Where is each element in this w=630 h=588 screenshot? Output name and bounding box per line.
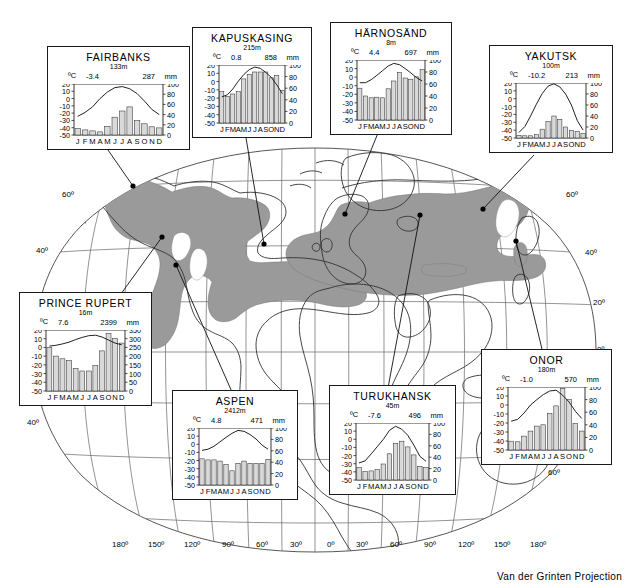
climograph-elevation: 100m [490,62,612,70]
y-tick-right: 40 [289,96,297,105]
temp-unit-label: ºC [213,52,221,61]
temperature-curve [519,84,583,133]
y-tick-right: 60 [289,84,297,93]
svg-text:J: J [80,393,84,402]
y-tick-left: -50 [343,116,353,125]
climograph-turukhansk[interactable]: TURUKHANSK45mºC-7.6496mm20100-10-20-30-4… [329,385,456,495]
climograph-prince-rupert[interactable]: PRINCE RUPERT16mºC7.62399mm20100-10-20-3… [19,292,152,406]
lon-label-180e: 180º [530,540,546,549]
y-tick-right: 80 [590,90,598,99]
total-precipitation-value: 2399 [100,318,117,327]
svg-text:D: D [579,452,585,461]
lat-label-right-60: 60º [566,190,578,199]
y-tick-left: -50 [32,387,42,396]
svg-text:F: F [83,137,88,146]
y-tick-left: -50 [60,131,70,140]
y-tick-right: 0 [167,131,171,140]
total-precipitation-value: 496 [408,411,421,420]
lat-label-left-40b: 40º [27,418,39,427]
climograph-elevation: 16m [20,309,151,317]
climograph-onor[interactable]: ONOR180mºC-1.0570mm20100-10-20-30-40-501… [481,349,612,465]
lat-label-left-60: 60º [62,190,74,199]
svg-text:D: D [157,137,163,146]
climograph-title: ASPEN [173,395,297,407]
climograph-fairbanks[interactable]: FAIRBANKS133mºC-3.4287mm20100-10-20-30-4… [47,46,190,150]
climograph-plot: 20100-10-20-30-40-50100806040200JFMAMJJA… [331,60,451,134]
svg-text:J: J [76,137,80,146]
svg-text:M: M [72,393,78,402]
month-labels: JFMAMJJASOND [76,137,163,146]
precipitation-bars [75,107,162,135]
y-tick-right: 0 [275,481,279,490]
y-tick-right: 300 [129,335,141,344]
svg-text:M: M [379,122,385,131]
total-precipitation-value: 287 [142,72,155,81]
y-tick-right: 60 [275,447,283,456]
svg-text:D: D [580,140,586,149]
climograph-aspen[interactable]: ASPEN2412mºC4.8471mm20100-10-20-30-40-50… [172,390,298,500]
svg-text:A: A [399,482,405,491]
lon-label-120w: 120º [184,540,200,549]
y-tick-left: -30 [494,428,504,437]
svg-text:S: S [560,452,565,461]
svg-text:O: O [142,137,148,146]
y-tick-right: 60 [167,100,175,109]
y-tick-right: 40 [590,112,598,121]
svg-text:N: N [149,137,154,146]
svg-text:J: J [388,482,392,491]
precip-unit-label: mm [587,375,600,384]
lon-label-150w: 150º [148,540,164,549]
climograph-kapuskasing[interactable]: KAPUSKASING215mºC0.8858mm20100-10-20-30-… [192,27,312,138]
y-tick-left: -30 [32,370,42,379]
svg-text:O: O [411,482,417,491]
y-tick-right: 40 [429,92,437,101]
svg-text:N: N [573,452,578,461]
precipitation-bars [220,72,285,123]
climograph-elevation: 8m [331,39,451,47]
lat-label-right-40: 40º [585,248,597,257]
y-tick-right: 60 [590,101,598,110]
total-precipitation-value: 697 [404,48,417,57]
precipitation-bars [509,388,584,450]
svg-text:F: F [54,393,59,402]
y-tick-right: 0 [129,387,133,396]
climograph-yakutsk[interactable]: YAKUTSK100mºC-10.2213mm20100-10-20-30-40… [489,45,613,153]
climograph-title: TURUKHANSK [330,390,455,402]
climograph-elevation: 180m [482,366,611,374]
month-labels: JFMAMJJASOND [220,125,286,134]
mean-temperature-value: 4.8 [211,416,221,425]
svg-text:D: D [265,487,271,496]
y-tick-left: -50 [342,476,352,485]
y-tick-right: 20 [289,107,297,116]
y-tick-right: 100 [589,387,601,392]
y-tick-right: 0 [590,134,594,143]
temp-unit-label: ºC [502,374,510,383]
temp-unit-label: ºC [193,415,201,424]
svg-text:N: N [112,393,117,402]
climograph-harnosand[interactable]: HÄRNOSÄND8mºC4.4697mm20100-10-20-30-40-5… [330,22,452,135]
precip-unit-label: mm [165,72,178,81]
svg-text:S: S [134,137,139,146]
y-tick-right: 40 [433,453,441,462]
svg-text:J: J [394,482,398,491]
svg-text:N: N [414,122,419,131]
climograph-plot: 20100-10-20-30-40-5035030025020015010050… [20,330,151,405]
climograph-title: HÄRNOSÄND [331,27,451,39]
svg-text:O: O [106,393,112,402]
temperature-curve [78,87,160,117]
y-tick-right: 20 [590,123,598,132]
y-tick-right: 40 [589,421,597,430]
total-precipitation-value: 570 [564,375,577,384]
climograph-summary: ºC4.8471mm [173,415,297,426]
svg-text:D: D [119,393,125,402]
svg-text:M: M [368,482,374,491]
y-tick-right: 0 [289,119,293,128]
y-tick-left: -20 [32,361,42,370]
y-tick-right: 50 [129,378,137,387]
temperature-curve [202,430,268,450]
svg-text:M: M [223,487,229,496]
svg-text:J: J [87,393,91,402]
lat-label-left-40: 40º [36,246,48,255]
y-tick-right: 20 [433,465,441,474]
lon-label-120e: 120º [458,540,474,549]
